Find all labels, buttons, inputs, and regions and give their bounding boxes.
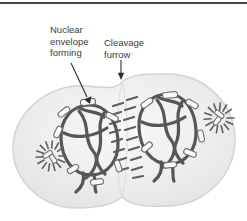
mitosis-telophase-diagram (0, 0, 247, 221)
nuclear-envelope-label: Nuclear envelope forming (50, 24, 96, 59)
figure-canvas: { "figure": { "labels": { "nuclear_envel… (0, 0, 247, 221)
cleavage-furrow-label: Cleavage furrow (104, 37, 150, 60)
cleavage-furrow-arrowhead (118, 73, 124, 80)
